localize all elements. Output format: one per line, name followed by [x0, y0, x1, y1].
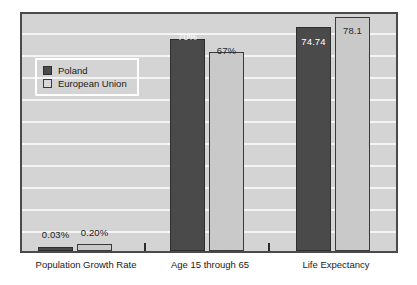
category-label-population-growth-rate: Population Growth Rate	[36, 259, 137, 270]
poland-swatch-icon	[43, 66, 52, 75]
bar-value-label: 67%	[209, 45, 244, 56]
axis-tick	[268, 243, 270, 251]
x-axis-labels: Population Growth Rate Age 15 through 65…	[20, 259, 398, 277]
bar-european-union-age-15-through-65[interactable]	[209, 52, 244, 251]
bar-chart: 0.03% 0.20% 70% 67% 74.74 78.1 Poland	[0, 0, 417, 285]
legend-item-european-union[interactable]: European Union	[43, 77, 127, 90]
bar-poland-age-15-through-65[interactable]	[170, 39, 205, 251]
legend-item-label: Poland	[58, 65, 88, 76]
bar-poland-life-expectancy[interactable]	[296, 27, 331, 251]
bar-value-label: 70%	[170, 31, 205, 42]
plot-area: 0.03% 0.20% 70% 67% 74.74 78.1 Poland	[20, 12, 398, 253]
legend: Poland European Union	[35, 58, 139, 96]
bar-value-label: 78.1	[335, 25, 370, 36]
bars-layer: 0.03% 0.20% 70% 67% 74.74 78.1	[22, 14, 396, 251]
legend-item-poland[interactable]: Poland	[43, 64, 127, 77]
category-label-age-15-through-65: Age 15 through 65	[171, 259, 249, 270]
axis-tick	[144, 243, 146, 251]
bar-value-label: 74.74	[294, 36, 333, 47]
bar-european-union-life-expectancy[interactable]	[335, 17, 370, 251]
bar-poland-population-growth-rate[interactable]	[38, 247, 73, 251]
category-label-life-expectancy: Life Expectancy	[302, 259, 369, 270]
european-union-swatch-icon	[43, 79, 52, 88]
bar-value-label: 0.03%	[38, 229, 73, 240]
legend-item-label: European Union	[58, 78, 127, 89]
bar-european-union-population-growth-rate[interactable]	[77, 244, 112, 251]
bar-value-label: 0.20%	[75, 227, 114, 238]
